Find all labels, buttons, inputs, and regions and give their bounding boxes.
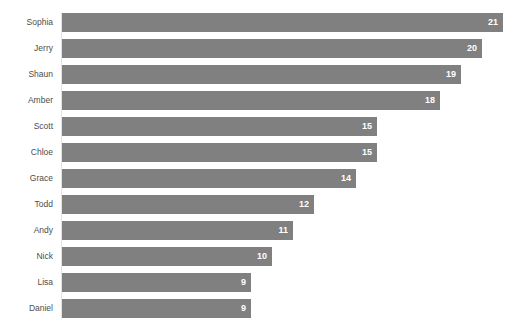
category-label: Daniel	[0, 299, 53, 318]
category-label: Lisa	[0, 273, 53, 292]
bar-row: Chloe15	[0, 143, 514, 162]
bar-value-label: 20	[467, 39, 477, 58]
category-label: Scott	[0, 117, 53, 136]
category-label: Sophia	[0, 13, 53, 32]
bar-row: Sophia21	[0, 13, 514, 32]
bar: 19	[62, 65, 461, 84]
category-label: Nick	[0, 247, 53, 266]
bar: 18	[62, 91, 440, 110]
bar: 21	[62, 13, 503, 32]
bar-chart: Sophia21Jerry20Shaun19Amber18Scott15Chlo…	[0, 0, 514, 333]
bar-value-label: 12	[299, 195, 309, 214]
bar-value-label: 14	[341, 169, 351, 188]
bar: 14	[62, 169, 356, 188]
category-label: Chloe	[0, 143, 53, 162]
bar: 10	[62, 247, 272, 266]
bar-value-label: 10	[257, 247, 267, 266]
bar-value-label: 19	[446, 65, 456, 84]
bar-row: Shaun19	[0, 65, 514, 84]
bar-row: Todd12	[0, 195, 514, 214]
bar-value-label: 18	[425, 91, 435, 110]
bar-value-label: 21	[488, 13, 498, 32]
bar-row: Nick10	[0, 247, 514, 266]
category-label: Andy	[0, 221, 53, 240]
bar: 9	[62, 273, 251, 292]
bar-value-label: 15	[362, 143, 372, 162]
bar-row: Scott15	[0, 117, 514, 136]
bar-row: Andy11	[0, 221, 514, 240]
bar-row: Amber18	[0, 91, 514, 110]
bar: 15	[62, 143, 377, 162]
bar: 15	[62, 117, 377, 136]
bar-row: Jerry20	[0, 39, 514, 58]
category-label: Jerry	[0, 39, 53, 58]
bar-row: Grace14	[0, 169, 514, 188]
bar: 20	[62, 39, 482, 58]
chart-title	[0, 0, 514, 2]
bar-row: Lisa9	[0, 273, 514, 292]
bar-row: Daniel9	[0, 299, 514, 318]
category-label: Grace	[0, 169, 53, 188]
bar-value-label: 9	[241, 299, 246, 318]
bar-value-label: 15	[362, 117, 372, 136]
category-label: Amber	[0, 91, 53, 110]
bar: 11	[62, 221, 293, 240]
plot-area: Sophia21Jerry20Shaun19Amber18Scott15Chlo…	[0, 13, 514, 325]
bar: 12	[62, 195, 314, 214]
category-label: Todd	[0, 195, 53, 214]
bar-value-label: 11	[278, 221, 288, 240]
bar: 9	[62, 299, 251, 318]
category-label: Shaun	[0, 65, 53, 84]
bar-value-label: 9	[241, 273, 246, 292]
